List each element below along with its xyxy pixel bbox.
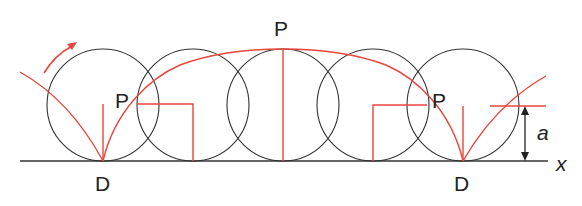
label-contact-left: D — [95, 173, 110, 194]
diagram-canvas — [0, 0, 582, 206]
label-axis-x: x — [556, 153, 567, 174]
cycloid-right-tail — [463, 76, 546, 161]
construction-lines — [103, 49, 546, 161]
dimension-arrow-a — [521, 106, 529, 161]
bracket-right — [373, 105, 427, 161]
label-point-right: P — [432, 90, 446, 111]
bracket-left — [137, 104, 193, 161]
label-point-left: P — [115, 90, 129, 111]
cycloid-left-tail — [20, 72, 103, 161]
cycloid-diagram: P P P D D a x — [0, 0, 582, 206]
label-point-top: P — [274, 18, 288, 39]
label-radius-a: a — [537, 122, 549, 143]
label-contact-right: D — [454, 173, 469, 194]
